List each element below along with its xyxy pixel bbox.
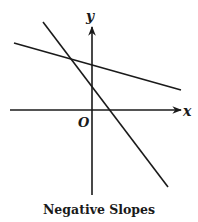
coordinate-plane-diagram: y x O Negative Slopes bbox=[0, 0, 198, 222]
x-axis-label: x bbox=[182, 103, 192, 119]
diagram-caption: Negative Slopes bbox=[43, 202, 155, 217]
steep-negative-slope-line bbox=[43, 22, 168, 187]
y-axis-label: y bbox=[85, 8, 95, 24]
origin-label: O bbox=[78, 115, 90, 130]
shallow-negative-slope-line bbox=[14, 43, 181, 90]
